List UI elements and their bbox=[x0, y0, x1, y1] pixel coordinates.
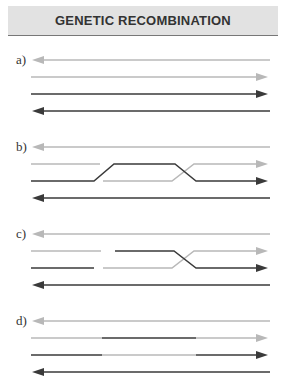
panel-a-strands bbox=[31, 60, 270, 111]
panel-d-strands bbox=[31, 321, 270, 372]
panel-b-strands bbox=[31, 147, 270, 198]
panel-c-strands bbox=[31, 234, 270, 285]
recombination-diagram bbox=[0, 0, 284, 389]
